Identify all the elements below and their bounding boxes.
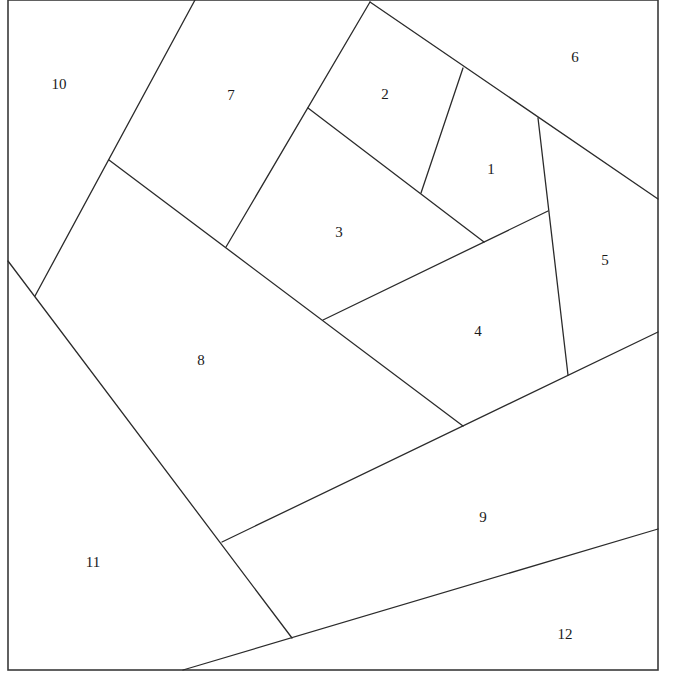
seam-9-11-12 [183, 529, 658, 670]
seam-lines [8, 0, 658, 670]
seam-3-4 [323, 211, 548, 320]
piece-label-9: 9 [479, 509, 487, 525]
seam-10-8-9-11 [8, 261, 292, 638]
piecing-diagram: 123456789101112 [0, 0, 676, 679]
seam-7-3-4-8 [109, 160, 463, 426]
pattern-border [8, 0, 658, 670]
seam-2-1-3 [308, 108, 484, 242]
piece-label-6: 6 [571, 49, 579, 65]
piece-label-12: 12 [558, 626, 573, 642]
piece-label-4: 4 [474, 323, 482, 339]
piece-label-11: 11 [86, 554, 100, 570]
piece-label-10: 10 [52, 76, 67, 92]
piece-label-2: 2 [381, 86, 389, 102]
piece-label-3: 3 [335, 224, 343, 240]
piece-label-8: 8 [197, 352, 205, 368]
seam-2-1 [421, 68, 463, 193]
seam-1-4-5 [538, 118, 568, 375]
piece-label-5: 5 [601, 252, 609, 268]
piece-label-7: 7 [227, 87, 235, 103]
piece-label-1: 1 [487, 161, 495, 177]
piece-labels: 123456789101112 [52, 49, 609, 642]
seam-7-2-3 [226, 2, 370, 247]
seam-7-10 [35, 0, 195, 296]
seam-6-2-1-5 [370, 2, 658, 199]
seam-8-4-5-9 [222, 332, 658, 542]
